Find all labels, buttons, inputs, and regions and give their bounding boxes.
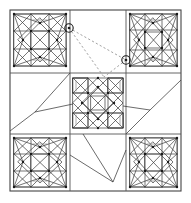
dashed-connectors [69,28,126,77]
star-block-bottom-right [129,137,178,188]
star-block-top-right [129,13,178,67]
panel-middle-right [123,80,181,134]
star-block-top-left [13,13,67,67]
diagram-canvas [0,0,191,203]
star-block-center [73,77,123,129]
panel-middle-left [10,73,73,131]
panel-bottom-center [70,134,126,182]
star-block-bottom-left [13,137,67,188]
tessellation-figure [0,0,191,203]
